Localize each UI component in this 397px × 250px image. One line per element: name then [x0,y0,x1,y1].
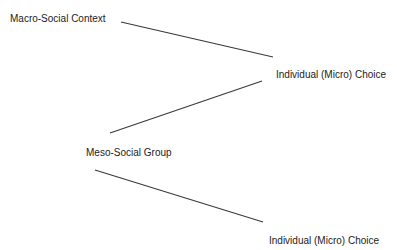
node-macro-social-context: Macro-Social Context [10,13,106,25]
node-meso-social-group: Meso-Social Group [86,147,172,159]
edge-meso-to-micro-2 [95,170,263,222]
diagram-canvas: Macro-Social Context Individual (Micro) … [0,0,397,250]
node-individual-micro-choice-1: Individual (Micro) Choice [276,69,386,81]
edge-macro-to-micro-1 [121,22,273,57]
connector-lines [0,0,397,250]
node-individual-micro-choice-2: Individual (Micro) Choice [269,235,379,247]
edge-meso-to-micro-1 [110,81,262,133]
